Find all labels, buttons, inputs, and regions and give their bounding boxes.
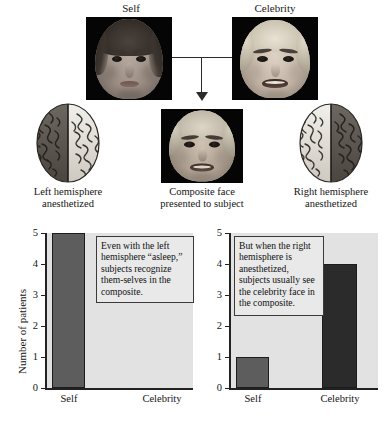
x-axis bbox=[45, 388, 193, 390]
right-hemisphere-caption-line1: Right hemisphere bbox=[272, 186, 390, 198]
y-tick-3 bbox=[225, 295, 230, 296]
x-tick-label-celebrity: Celebrity bbox=[134, 393, 190, 404]
x-tick-label-self: Self bbox=[232, 393, 274, 404]
charts-region: Number of patients 5 4 3 2 1 0 Even with… bbox=[0, 216, 391, 434]
left-hemisphere-brain-image bbox=[25, 103, 111, 183]
y-tick-label-1: 1 bbox=[208, 351, 222, 362]
composite-caption-line1: Composite face bbox=[137, 186, 267, 198]
brain-icon bbox=[25, 103, 111, 183]
self-photo bbox=[86, 17, 172, 100]
x-tick-label-self: Self bbox=[49, 393, 89, 404]
figure-diagram: Self Celebrity bbox=[0, 0, 391, 216]
self-face-graphic bbox=[95, 19, 163, 99]
y-tick-label-5: 5 bbox=[24, 227, 38, 238]
left-hemisphere-caption: Left hemisphere anesthetized bbox=[10, 186, 126, 210]
composite-caption-line2: presented to subject bbox=[137, 198, 267, 210]
celebrity-photo-label: Celebrity bbox=[220, 2, 330, 14]
y-axis bbox=[229, 233, 231, 389]
arrow-head-icon bbox=[196, 92, 208, 101]
composite-face-graphic bbox=[169, 111, 235, 182]
y-tick-label-5: 5 bbox=[208, 227, 222, 238]
y-tick-label-2: 2 bbox=[24, 320, 38, 331]
y-tick-4 bbox=[41, 264, 46, 265]
left-hemisphere-anesthetized-chart: Number of patients 5 4 3 2 1 0 Even with… bbox=[0, 216, 200, 434]
bar-self bbox=[236, 357, 269, 388]
left-chart-annotation: Even with the left hemisphere “asleep,” … bbox=[96, 236, 194, 303]
y-axis bbox=[45, 233, 47, 389]
right-hemisphere-anesthetized-chart: 5 4 3 2 1 0 But when the right hemispher… bbox=[200, 216, 391, 434]
y-tick-3 bbox=[41, 295, 46, 296]
y-tick-2 bbox=[225, 326, 230, 327]
composite-photo bbox=[161, 109, 243, 183]
y-tick-label-0: 0 bbox=[208, 382, 222, 393]
y-tick-label-4: 4 bbox=[208, 258, 222, 269]
y-tick-5 bbox=[225, 233, 230, 234]
connector-vertical bbox=[201, 57, 202, 93]
y-tick-label-4: 4 bbox=[24, 258, 38, 269]
connector-right bbox=[202, 57, 232, 58]
y-tick-0 bbox=[41, 388, 46, 389]
connector-left bbox=[172, 57, 202, 58]
composite-caption: Composite face presented to subject bbox=[137, 186, 267, 210]
y-tick-label-3: 3 bbox=[24, 289, 38, 300]
y-tick-1 bbox=[225, 357, 230, 358]
y-tick-2 bbox=[41, 326, 46, 327]
right-hemisphere-caption: Right hemisphere anesthetized bbox=[272, 186, 390, 210]
left-hemisphere-caption-line1: Left hemisphere bbox=[10, 186, 126, 198]
x-axis bbox=[229, 388, 378, 390]
brain-icon bbox=[288, 103, 374, 183]
y-tick-label-1: 1 bbox=[24, 351, 38, 362]
left-hemisphere-caption-line2: anesthetized bbox=[10, 198, 126, 210]
y-tick-label-3: 3 bbox=[208, 289, 222, 300]
bar-self bbox=[52, 233, 85, 388]
x-tick-label-celebrity: Celebrity bbox=[312, 393, 368, 404]
self-photo-label: Self bbox=[76, 2, 186, 14]
celebrity-photo bbox=[232, 17, 318, 100]
y-tick-4 bbox=[225, 264, 230, 265]
y-tick-label-0: 0 bbox=[24, 382, 38, 393]
right-hemisphere-brain-image bbox=[288, 103, 374, 183]
right-chart-annotation: But when the right hemisphere is anesthe… bbox=[234, 236, 324, 316]
right-hemisphere-caption-line2: anesthetized bbox=[272, 198, 390, 210]
y-tick-5 bbox=[41, 233, 46, 234]
y-tick-1 bbox=[41, 357, 46, 358]
bar-celebrity bbox=[322, 264, 357, 388]
celebrity-face-graphic bbox=[240, 20, 310, 98]
y-tick-0 bbox=[225, 388, 230, 389]
y-tick-label-2: 2 bbox=[208, 320, 222, 331]
